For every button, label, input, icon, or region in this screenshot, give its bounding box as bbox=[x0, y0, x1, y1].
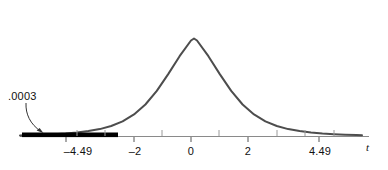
x-tick-label-2: 2 bbox=[245, 145, 251, 157]
x-tick-label-4-49: 4.49 bbox=[309, 145, 331, 157]
major-tick-marks bbox=[66, 137, 319, 142]
x-tick-label-0: 0 bbox=[188, 145, 194, 157]
annotation-leader-line bbox=[26, 103, 41, 132]
x-tick-label-neg-2: –2 bbox=[129, 145, 142, 157]
tail-probability-annotation: .0003 bbox=[8, 90, 37, 102]
shaded-tail-region bbox=[22, 133, 118, 138]
density-curve bbox=[20, 39, 362, 136]
x-axis-name-label: t bbox=[366, 141, 369, 153]
t-distribution-chart: –4.49 –2 0 2 4.49 t .0003 bbox=[0, 0, 388, 170]
x-tick-label-neg-4-49: –4.49 bbox=[64, 145, 93, 157]
